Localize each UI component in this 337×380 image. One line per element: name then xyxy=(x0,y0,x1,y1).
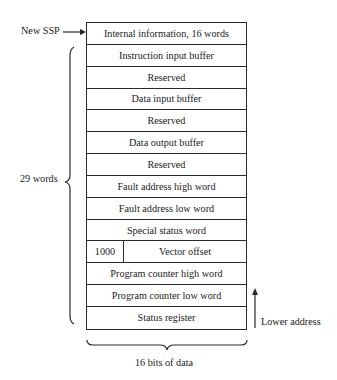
row-label: Data input buffer xyxy=(132,93,202,104)
lower-address-label: Lower address xyxy=(261,316,321,327)
row-label: Vector offset xyxy=(159,246,211,257)
stack-row-status-register: Status register xyxy=(87,307,246,329)
left-brace-icon xyxy=(65,47,74,324)
format-code-cell: 1000 xyxy=(87,241,124,262)
stack-row-fault-address-low: Fault address low word xyxy=(87,198,246,220)
word-count-label: 29 words xyxy=(20,173,58,184)
row-label: Program counter low word xyxy=(112,290,222,301)
data-width-label: 16 bits of data xyxy=(135,357,193,368)
row-label: Special status word xyxy=(127,225,206,236)
vector-offset-cell: Vector offset xyxy=(124,241,246,262)
row-label: Reserved xyxy=(148,72,186,83)
row-label: Reserved xyxy=(148,159,186,170)
row-label: Reserved xyxy=(148,115,186,126)
stack-row-instruction-input-buffer: Instruction input buffer xyxy=(87,45,246,67)
row-label: Fault address high word xyxy=(117,181,215,192)
new-ssp-label: New SSP xyxy=(21,25,60,36)
row-label: Internal information, 16 words xyxy=(104,28,229,39)
stack-row-internal-information: Internal information, 16 words xyxy=(87,23,246,45)
stack-frame: Internal information, 16 words Instructi… xyxy=(86,22,247,330)
stack-row-program-counter-high: Program counter high word xyxy=(87,263,246,285)
stack-row-program-counter-low: Program counter low word xyxy=(87,285,246,307)
stack-row-fault-address-high: Fault address high word xyxy=(87,176,246,198)
row-label: Program counter high word xyxy=(110,268,222,279)
stack-row-reserved: Reserved xyxy=(87,154,246,176)
stack-row-reserved: Reserved xyxy=(87,110,246,132)
format-code-label: 1000 xyxy=(95,246,115,257)
row-label: Instruction input buffer xyxy=(119,50,214,61)
bottom-brace-icon xyxy=(87,340,247,350)
row-label: Fault address low word xyxy=(119,203,214,214)
stack-row-data-output-buffer: Data output buffer xyxy=(87,132,246,154)
stack-row-reserved: Reserved xyxy=(87,67,246,89)
stack-row-special-status-word: Special status word xyxy=(87,220,246,242)
stack-row-vector-offset: 1000 Vector offset xyxy=(87,241,246,263)
pointer-arrow-icon xyxy=(63,28,87,36)
stack-row-data-input-buffer: Data input buffer xyxy=(87,89,246,111)
row-label: Status register xyxy=(137,312,195,323)
row-label: Data output buffer xyxy=(129,137,204,148)
